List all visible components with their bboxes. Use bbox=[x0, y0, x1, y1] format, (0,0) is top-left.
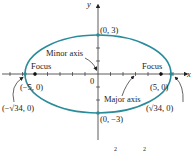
left-focus-coord-label: (−5, 0) bbox=[20, 83, 43, 92]
major-axis-label: Major axis bbox=[104, 95, 141, 104]
left-vertex-label: (−√34, 0) bbox=[2, 104, 34, 113]
left-focus-label: Focus bbox=[31, 62, 51, 71]
right-focus-label: Focus bbox=[142, 62, 162, 71]
minor-axis-label: Minor axis bbox=[46, 49, 83, 58]
right-vertex-arrow bbox=[176, 78, 183, 102]
right-focus-coord-label: (5, 0) bbox=[150, 83, 168, 92]
right-focus-point bbox=[159, 72, 163, 76]
right-vertex-point bbox=[169, 72, 173, 76]
top-vertex-label: (0, 3) bbox=[100, 26, 118, 35]
right-vertex-label: (√34, 0) bbox=[146, 104, 173, 113]
bottom-vertex-label: (0, −3) bbox=[100, 115, 123, 124]
x-axis-label: x bbox=[187, 70, 191, 79]
left-focus-point bbox=[33, 72, 37, 76]
equation-exponent-2: 2 bbox=[143, 146, 146, 152]
y-axis-label: y bbox=[87, 0, 91, 9]
equation-exponent-1: 2 bbox=[114, 146, 117, 152]
origin-label: 0 bbox=[90, 77, 94, 86]
minor-axis-arrow bbox=[85, 58, 96, 69]
left-vertex-point bbox=[23, 72, 27, 76]
ellipse-diagram bbox=[0, 0, 192, 153]
